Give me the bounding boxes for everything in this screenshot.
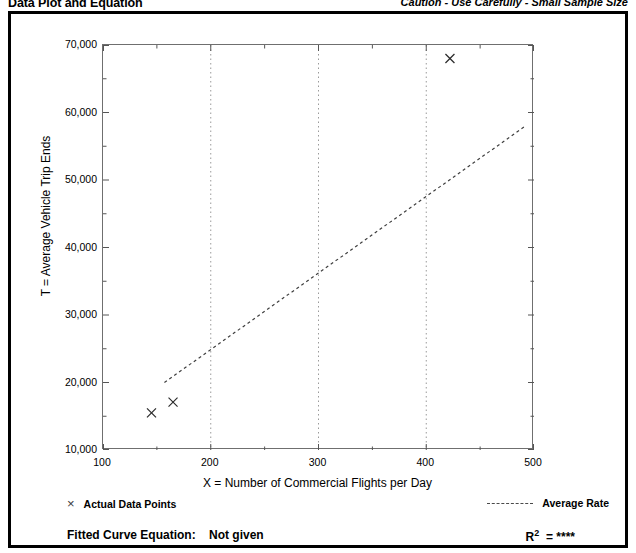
average-rate-line <box>164 126 525 383</box>
y-axis-tick-label: 20,000 <box>35 377 97 388</box>
gridlines <box>211 45 427 450</box>
fitted-curve-equation: Fitted Curve Equation: Not given <box>67 528 264 542</box>
plot-graphics <box>103 45 534 450</box>
legend-label-average-rate: Average Rate <box>542 497 609 509</box>
x-axis-tick-label: 300 <box>288 457 348 468</box>
legend-label-actual-data-points: Actual Data Points <box>84 498 177 510</box>
data-point-markers <box>147 54 454 417</box>
x-axis-tick-label: 400 <box>395 457 455 468</box>
x-axis-tick-label: 100 <box>72 457 132 468</box>
r-squared-exponent: 2 <box>534 528 539 538</box>
x-axis-tick-label: 500 <box>503 457 563 468</box>
x-axis-title: X = Number of Commercial Flights per Day <box>102 476 533 490</box>
plot-area <box>102 44 533 449</box>
data-point-marker <box>147 408 156 417</box>
fitted-curve-equation-label: Fitted Curve Equation: <box>67 528 196 542</box>
x-marker-icon: × <box>67 497 75 510</box>
r-squared-value: R2 = **** <box>526 528 575 544</box>
x-axis-tick-label: 200 <box>180 457 240 468</box>
x-axis-tick-labels: 100200300400500 <box>102 457 533 471</box>
dashed-line-icon <box>487 503 533 504</box>
chart-frame: 10,00020,00030,00040,00050,00060,00070,0… <box>8 11 628 548</box>
chart-footer: Fitted Curve Equation: Not given R2 = **… <box>11 528 631 550</box>
page-title: Data Plot and Equation <box>8 0 143 10</box>
data-point-marker <box>445 54 454 63</box>
y-axis-tick-label: 10,000 <box>35 444 97 455</box>
y-axis-tick-label: 70,000 <box>35 39 97 50</box>
r-squared-number: = **** <box>546 530 575 544</box>
caution-note: Caution - Use Carefully - Small Sample S… <box>401 0 628 8</box>
chart-region: 10,00020,00030,00040,00050,00060,00070,0… <box>11 14 631 551</box>
y-axis-title: T = Average Vehicle Trip Ends <box>39 96 53 336</box>
r-squared-label: R <box>526 530 535 544</box>
fitted-curve-equation-value: Not given <box>209 528 264 542</box>
chart-legend: × Actual Data Points Average Rate <box>11 497 631 519</box>
legend-item-average-rate: Average Rate <box>487 497 609 509</box>
data-point-marker <box>169 398 178 407</box>
legend-item-actual-data-points: × Actual Data Points <box>67 497 176 510</box>
